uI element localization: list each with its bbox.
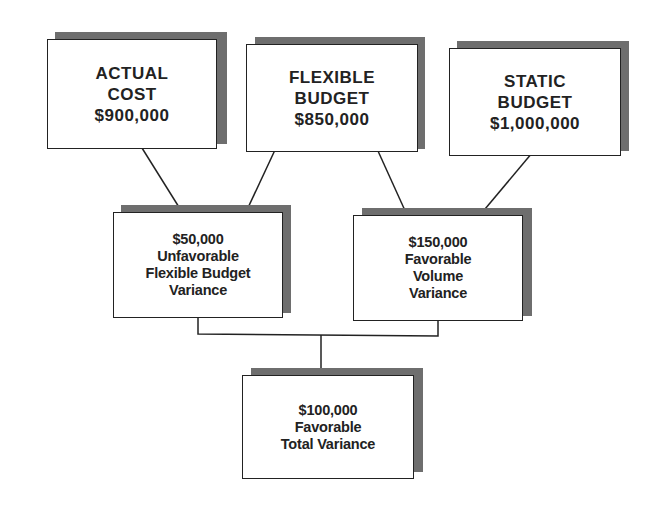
connector-actual-to-flex-variance [142, 148, 182, 212]
static-budget-label-1: STATIC [504, 71, 566, 92]
flexible-budget-variance-status: Unfavorable [157, 248, 239, 265]
flexible-budget-variance-label-1: Flexible Budget [146, 265, 251, 282]
total-variance-status: Favorable [295, 419, 362, 436]
static-budget-label-2: BUDGET [498, 92, 573, 113]
connector-flex-to-volume-variance [378, 151, 407, 215]
volume-variance-box: $150,000 Favorable Volume Variance [353, 215, 523, 321]
flexible-budget-variance-amount: $50,000 [172, 231, 223, 248]
flexible-budget-amount: $850,000 [295, 109, 370, 130]
actual-cost-amount: $900,000 [95, 105, 170, 126]
static-budget-box: STATIC BUDGET $1,000,000 [449, 48, 621, 156]
actual-cost-label-1: ACTUAL [96, 63, 169, 84]
volume-variance-amount: $150,000 [409, 234, 468, 251]
flexible-budget-label-1: FLEXIBLE [289, 67, 375, 88]
total-variance-label: Total Variance [281, 436, 375, 453]
flexible-budget-box: FLEXIBLE BUDGET $850,000 [246, 44, 418, 152]
total-variance-amount: $100,000 [299, 402, 358, 419]
actual-cost-label-2: COST [107, 84, 156, 105]
connector-static-to-volume-variance [480, 153, 532, 215]
flexible-budget-label-2: BUDGET [295, 88, 370, 109]
flexible-budget-variance-box: $50,000 Unfavorable Flexible Budget Vari… [113, 212, 283, 318]
connector-flex-to-flex-variance [246, 150, 275, 212]
volume-variance-status: Favorable [405, 251, 472, 268]
volume-variance-label-1: Volume [413, 268, 463, 285]
flexible-budget-variance-label-2: Variance [169, 282, 227, 299]
static-budget-amount: $1,000,000 [490, 113, 580, 134]
variance-diagram: ACTUAL COST $900,000 FLEXIBLE BUDGET $85… [0, 0, 659, 516]
total-variance-box: $100,000 Favorable Total Variance [242, 375, 414, 479]
actual-cost-box: ACTUAL COST $900,000 [47, 39, 217, 149]
volume-variance-label-2: Variance [409, 285, 467, 302]
